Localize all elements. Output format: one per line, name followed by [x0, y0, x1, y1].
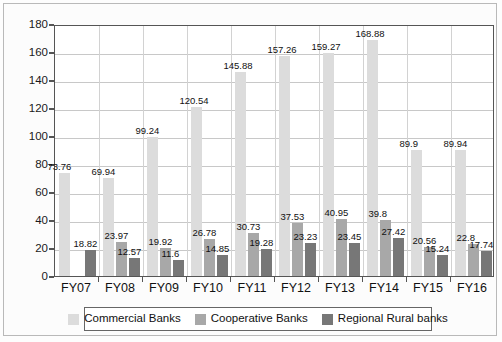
y-axis-tick-mark [49, 108, 54, 109]
bar [261, 249, 272, 276]
bar-value-label: 159.27 [312, 42, 341, 52]
bar-value-label: 15.24 [426, 244, 450, 254]
x-axis-category-label: FY08 [98, 282, 142, 295]
bar-value-label: 17.74 [470, 240, 494, 250]
y-axis-tick-label: 140 [8, 75, 48, 87]
y-axis-tick-label: 0 [8, 271, 48, 283]
x-axis-category-label: FY07 [54, 282, 98, 295]
gridline [55, 110, 493, 111]
y-axis-tick-label: 40 [8, 215, 48, 227]
gridline [55, 138, 493, 139]
y-axis-tick-label: 80 [8, 159, 48, 171]
bar [411, 150, 422, 276]
y-axis-tick-mark [49, 136, 54, 137]
bar [173, 260, 184, 276]
gridline [55, 222, 493, 223]
bar-chart: Commercial BanksCooperative BanksRegiona… [0, 0, 502, 342]
legend-swatch [68, 314, 79, 325]
y-axis-tick-mark [49, 276, 54, 277]
bar [481, 251, 492, 276]
y-axis-tick-mark [49, 24, 54, 25]
bar [437, 255, 448, 276]
category-separator [99, 26, 100, 276]
bar-value-label: 26.78 [193, 228, 217, 238]
x-axis-category-label: FY14 [362, 282, 406, 295]
category-separator [363, 26, 364, 276]
bar-value-label: 145.88 [224, 61, 253, 71]
bar-value-label: 18.82 [74, 239, 98, 249]
bar-value-label: 157.26 [268, 45, 297, 55]
y-axis-tick-mark [49, 248, 54, 249]
y-axis-tick-mark [49, 80, 54, 81]
bar-value-label: 89.9 [400, 139, 419, 149]
bar [235, 72, 246, 276]
y-axis-tick-mark [49, 52, 54, 53]
y-axis-tick-label: 180 [8, 19, 48, 31]
bar [349, 243, 360, 276]
category-separator [319, 26, 320, 276]
legend-swatch [322, 314, 333, 325]
legend-item[interactable]: Cooperative Banks [195, 313, 308, 325]
legend-item[interactable]: Commercial Banks [68, 313, 181, 325]
bar-value-label: 27.42 [382, 227, 406, 237]
x-axis-category-label: FY15 [406, 282, 450, 295]
x-axis-category-label: FY10 [186, 282, 230, 295]
legend-swatch [195, 314, 206, 325]
y-axis-tick-mark [49, 192, 54, 193]
bar [305, 243, 316, 276]
bar [85, 250, 96, 276]
x-axis-category-label: FY13 [318, 282, 362, 295]
legend-label: Commercial Banks [84, 313, 181, 325]
bar-value-label: 19.92 [149, 237, 173, 247]
legend-label: Cooperative Banks [211, 313, 308, 325]
x-axis-category-label: FY09 [142, 282, 186, 295]
bar-value-label: 23.45 [338, 232, 362, 242]
bar [59, 173, 70, 276]
bar [191, 107, 202, 276]
bar [217, 255, 228, 276]
bar-value-label: 37.53 [281, 212, 305, 222]
bar-value-label: 39.8 [369, 209, 388, 219]
y-axis-tick-label: 20 [8, 243, 48, 255]
bar [147, 137, 158, 276]
bar [279, 56, 290, 276]
legend-item[interactable]: Regional Rural banks [322, 313, 448, 325]
category-separator [275, 26, 276, 276]
y-axis-tick-label: 100 [8, 131, 48, 143]
category-separator [143, 26, 144, 276]
bar-value-label: 23.23 [294, 232, 318, 242]
x-axis-category-label: FY16 [450, 282, 494, 295]
bar [129, 258, 140, 276]
gridline [55, 82, 493, 83]
category-separator [187, 26, 188, 276]
bar-value-label: 23.97 [105, 231, 129, 241]
bar [367, 40, 378, 276]
chart-frame: Commercial BanksCooperative BanksRegiona… [3, 3, 497, 336]
x-axis-category-label: FY11 [230, 282, 274, 295]
bar-value-label: 89.94 [444, 139, 468, 149]
category-separator [451, 26, 452, 276]
bar [455, 150, 466, 276]
y-axis-tick-label: 120 [8, 103, 48, 115]
bar-value-label: 120.54 [180, 96, 209, 106]
legend-label: Regional Rural banks [338, 313, 448, 325]
y-axis-tick-mark [49, 220, 54, 221]
bar-value-label: 11.6 [162, 249, 180, 259]
category-separator [407, 26, 408, 276]
gridline [55, 166, 493, 167]
bar [393, 238, 404, 276]
x-axis-category-label: FY12 [274, 282, 318, 295]
bar-value-label: 73.76 [48, 162, 72, 172]
bar-value-label: 40.95 [325, 208, 349, 218]
bar-value-label: 168.88 [356, 29, 385, 39]
bar-value-label: 69.94 [92, 167, 116, 177]
bar-value-label: 19.28 [250, 238, 274, 248]
bar-value-label: 14.85 [206, 244, 230, 254]
bar-value-label: 12.57 [118, 247, 142, 257]
bar [103, 178, 114, 276]
bar-value-label: 30.73 [237, 222, 261, 232]
bar-value-label: 99.24 [136, 126, 160, 136]
bar [336, 219, 347, 276]
chart-legend: Commercial BanksCooperative BanksRegiona… [84, 307, 432, 331]
y-axis-tick-label: 60 [8, 187, 48, 199]
